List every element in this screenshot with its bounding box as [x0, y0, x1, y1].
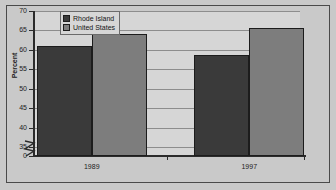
- y-tick-label: 40: [9, 124, 27, 131]
- legend-item-rhode-island: Rhode Island: [63, 14, 115, 23]
- chart-legend: Rhode Island United States: [60, 11, 120, 35]
- y-tick-mark: [29, 50, 33, 51]
- y-tick-mark: [29, 69, 33, 70]
- y-tick-mark: [29, 89, 33, 90]
- axis-break-icon: [22, 139, 38, 157]
- y-tick-label: 65: [9, 26, 27, 33]
- y-axis-title: Percent: [11, 38, 18, 94]
- legend-label-rhode-island: Rhode Island: [73, 15, 114, 23]
- bar-chart-figure: 70656055504540350 Percent 19891997 Rhode…: [0, 0, 336, 190]
- y-tick-mark: [29, 108, 33, 109]
- y-tick-mark: [29, 30, 33, 31]
- y-tick-mark: [29, 11, 33, 12]
- y-tick-label: 45: [9, 104, 27, 111]
- x-tick-label: 1989: [62, 163, 122, 170]
- x-tick-label: 1997: [219, 163, 279, 170]
- legend-item-united-states: United States: [63, 23, 115, 32]
- x-tick-mark-mid: [167, 157, 168, 160]
- bar-rhode-island-1989: [37, 46, 92, 156]
- legend-label-united-states: United States: [73, 24, 115, 32]
- legend-swatch-rhode-island: [63, 15, 70, 22]
- y-tick-mark: [29, 128, 33, 129]
- y-axis-line: [33, 11, 35, 156]
- bar-united-states-1989: [92, 34, 147, 156]
- x-tick-mark-end: [304, 157, 305, 160]
- bar-united-states-1997: [249, 28, 304, 156]
- legend-swatch-united-states: [63, 24, 70, 31]
- y-tick-label: 70: [9, 7, 27, 14]
- bar-rhode-island-1997: [194, 55, 249, 156]
